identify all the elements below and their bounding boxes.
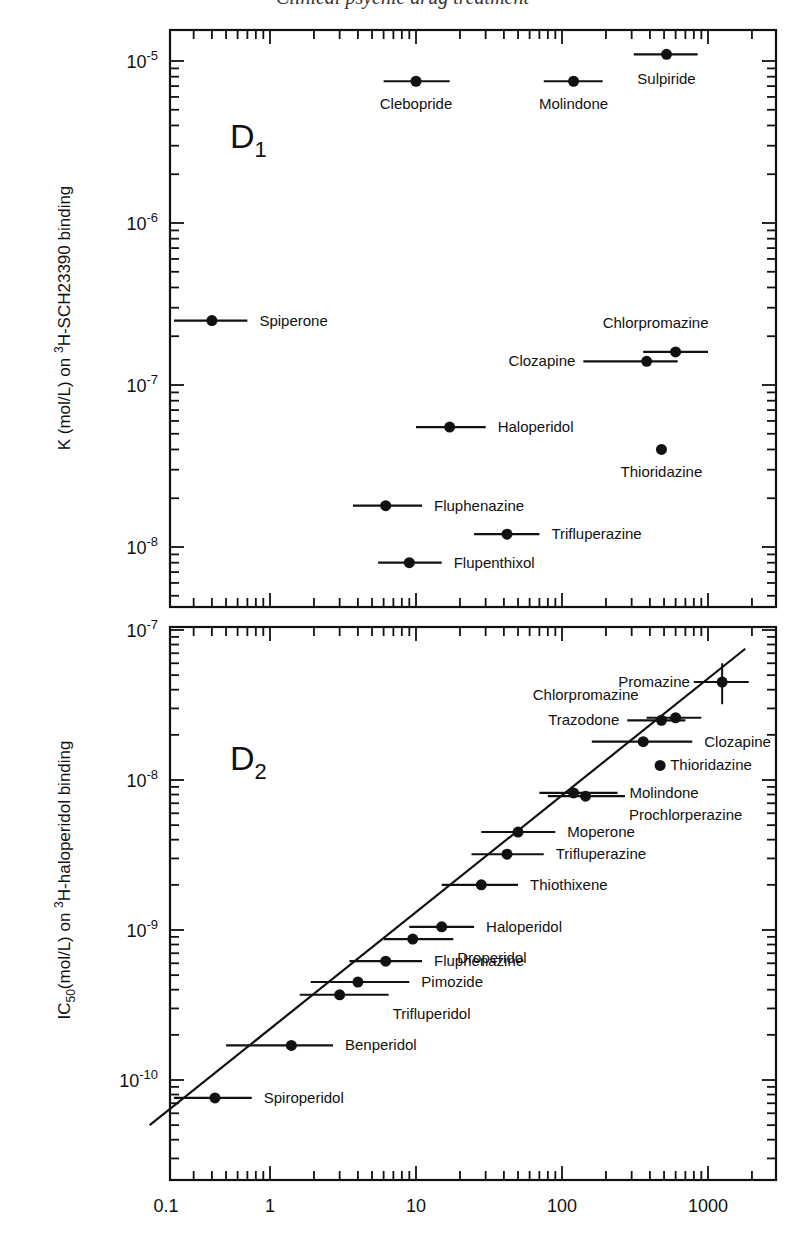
marker-dot xyxy=(352,977,363,988)
y-tick-label: 10-6 xyxy=(126,210,158,234)
marker-dot xyxy=(670,346,681,357)
point-label: Molindone xyxy=(630,784,699,801)
marker-dot xyxy=(638,736,649,747)
data-point: Spiroperidol xyxy=(174,1089,344,1106)
point-label: Sulpiride xyxy=(637,70,695,87)
data-point: Thioridazine xyxy=(655,756,752,773)
data-point: Haloperidol xyxy=(416,418,574,435)
x-tick-label: 1 xyxy=(265,1196,275,1216)
point-label: Clozapine xyxy=(509,352,576,369)
marker-dot xyxy=(404,557,415,568)
data-point: Fluphenazine xyxy=(349,952,524,969)
y-tick-label: 10-5 xyxy=(126,48,158,72)
data-point: Trifluperazine xyxy=(474,525,642,542)
data-point: Chlorpromazine xyxy=(603,314,709,358)
marker-dot xyxy=(580,791,591,802)
data-point: Clebopride xyxy=(380,76,453,113)
point-label: Clozapine xyxy=(704,733,771,750)
y-tick-label: 10-7 xyxy=(126,617,158,641)
marker-dot xyxy=(286,1040,297,1051)
marker-dot xyxy=(209,1092,220,1103)
marker-dot xyxy=(476,879,487,890)
plot-frame xyxy=(170,627,776,1180)
y-axis-label: IC50(mol/L) on 3H-haloperidol binding xyxy=(52,741,78,1020)
data-point: Clozapine xyxy=(592,733,771,750)
x-tick-label: 0.1 xyxy=(153,1196,178,1216)
point-label: Prochlorperazine xyxy=(629,806,742,823)
data-point: Haloperidol xyxy=(409,918,562,935)
point-label: Thioridazine xyxy=(670,756,752,773)
point-label: Chlorpromazine xyxy=(533,686,639,703)
point-label: Fluphenazine xyxy=(434,952,524,969)
marker-dot xyxy=(380,500,391,511)
point-label: Clebopride xyxy=(380,95,453,112)
panel-label: D2 xyxy=(230,739,267,784)
marker-dot xyxy=(206,315,217,326)
data-point: Trifluperidol xyxy=(300,989,471,1022)
point-label: Spiroperidol xyxy=(264,1089,344,1106)
y-axis-label: K (mol/L) on 3H-SCH23390 binding xyxy=(52,186,74,451)
point-label: Molindone xyxy=(539,95,608,112)
marker-dot xyxy=(411,76,422,87)
y-tick-label: 10-8 xyxy=(126,767,158,791)
panel-label: D1 xyxy=(230,117,267,162)
data-point: Sulpiride xyxy=(634,49,698,88)
point-label: Benperidol xyxy=(345,1036,417,1053)
marker-dot xyxy=(334,989,345,1000)
data-point: Thiothixene xyxy=(442,876,608,893)
point-label: Flupenthixol xyxy=(454,554,535,571)
point-label: Trifluperidol xyxy=(393,1005,471,1022)
point-label: Fluphenazine xyxy=(434,497,524,514)
data-point: Moperone xyxy=(481,823,635,840)
data-point: Flupenthixol xyxy=(378,554,535,571)
point-label: Pimozide xyxy=(421,973,483,990)
marker-dot xyxy=(568,76,579,87)
marker-dot xyxy=(656,715,667,726)
point-label: Trifluperazine xyxy=(551,525,641,542)
x-tick-label: 1000 xyxy=(688,1196,728,1216)
chart-panel-d2: 10-710-810-910-100.11101001000IC50(mol/L… xyxy=(52,617,776,1216)
point-label: Moperone xyxy=(567,823,635,840)
marker-dot xyxy=(501,849,512,860)
data-point: Spiperone xyxy=(174,312,328,329)
y-tick-label: 10-7 xyxy=(126,372,158,396)
marker-dot xyxy=(444,422,455,433)
chart-panel-d1: 10-510-610-710-8K (mol/L) on 3H-SCH23390… xyxy=(52,30,776,607)
marker-dot xyxy=(641,356,652,367)
marker-dot xyxy=(407,934,418,945)
point-label: Thiothixene xyxy=(530,876,608,893)
point-label: Trifluperazine xyxy=(556,845,646,862)
y-tick-label: 10-8 xyxy=(126,534,158,558)
marker-dot xyxy=(717,677,728,688)
marker-dot xyxy=(436,921,447,932)
point-label: Chlorpromazine xyxy=(603,314,709,331)
data-point: Clozapine xyxy=(509,352,678,369)
marker-dot xyxy=(655,760,666,771)
marker-dot xyxy=(501,529,512,540)
chart-figure: 10-510-610-710-8K (mol/L) on 3H-SCH23390… xyxy=(0,0,805,1235)
marker-dot xyxy=(670,712,681,723)
data-point: Molindone xyxy=(539,76,608,113)
x-tick-label: 10 xyxy=(406,1196,426,1216)
y-tick-label: 10-10 xyxy=(119,1067,158,1091)
point-label: Spiperone xyxy=(259,312,327,329)
marker-dot xyxy=(513,827,524,838)
data-point: Thioridazine xyxy=(621,444,703,481)
data-point: Benperidol xyxy=(226,1036,417,1053)
data-point: Fluphenazine xyxy=(353,497,524,514)
data-point: Molindone xyxy=(539,784,698,801)
point-label: Thioridazine xyxy=(621,463,703,480)
marker-dot xyxy=(661,49,672,60)
marker-dot xyxy=(656,444,667,455)
point-label: Trazodone xyxy=(548,711,619,728)
y-tick-label: 10-9 xyxy=(126,917,158,941)
x-tick-label: 100 xyxy=(547,1196,577,1216)
marker-dot xyxy=(380,956,391,967)
point-label: Haloperidol xyxy=(486,918,562,935)
point-label: Haloperidol xyxy=(498,418,574,435)
